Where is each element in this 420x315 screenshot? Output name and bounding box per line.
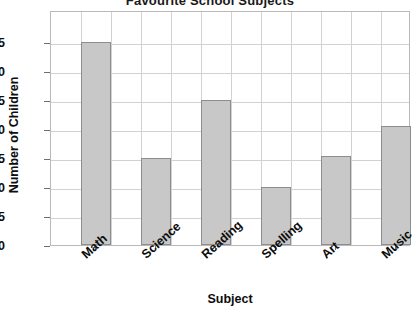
y-axis-tick-mark (44, 159, 50, 160)
bar-math (81, 42, 111, 245)
y-axis-tick-label: 25 (0, 94, 5, 108)
y-axis-tick-mark (44, 130, 50, 131)
y-axis-tick-label: 20 (0, 123, 5, 137)
y-axis-tick-label: 5 (0, 210, 5, 224)
y-axis-tick-label: 15 (0, 152, 5, 166)
bar-music (381, 126, 411, 245)
y-axis-tick-label: 0 (0, 239, 5, 253)
x-axis-title: Subject (50, 292, 410, 306)
y-axis-tick-mark (44, 72, 50, 73)
gridline-vertical (231, 12, 232, 245)
y-axis-tick-mark (44, 43, 50, 44)
y-axis-tick-mark (44, 246, 50, 247)
y-axis-tick-label: 30 (0, 65, 5, 79)
plot-area (50, 11, 410, 246)
gridline-vertical (111, 12, 112, 245)
bar-chart: Favourite School Subjects Number of Chil… (0, 0, 420, 315)
gridline-vertical (171, 12, 172, 245)
gridline-vertical (351, 12, 352, 245)
y-axis-tick-mark (44, 188, 50, 189)
bar-art (321, 156, 351, 245)
chart-title: Favourite School Subjects (0, 0, 420, 8)
y-axis-tick-label: 10 (0, 181, 5, 195)
y-axis-tick-mark (44, 101, 50, 102)
y-axis-tick-mark (44, 217, 50, 218)
bar-reading (201, 100, 231, 245)
y-axis-tick-label: 35 (0, 36, 5, 50)
y-axis-title: Number of Children (7, 35, 21, 235)
gridline-vertical (291, 12, 292, 245)
